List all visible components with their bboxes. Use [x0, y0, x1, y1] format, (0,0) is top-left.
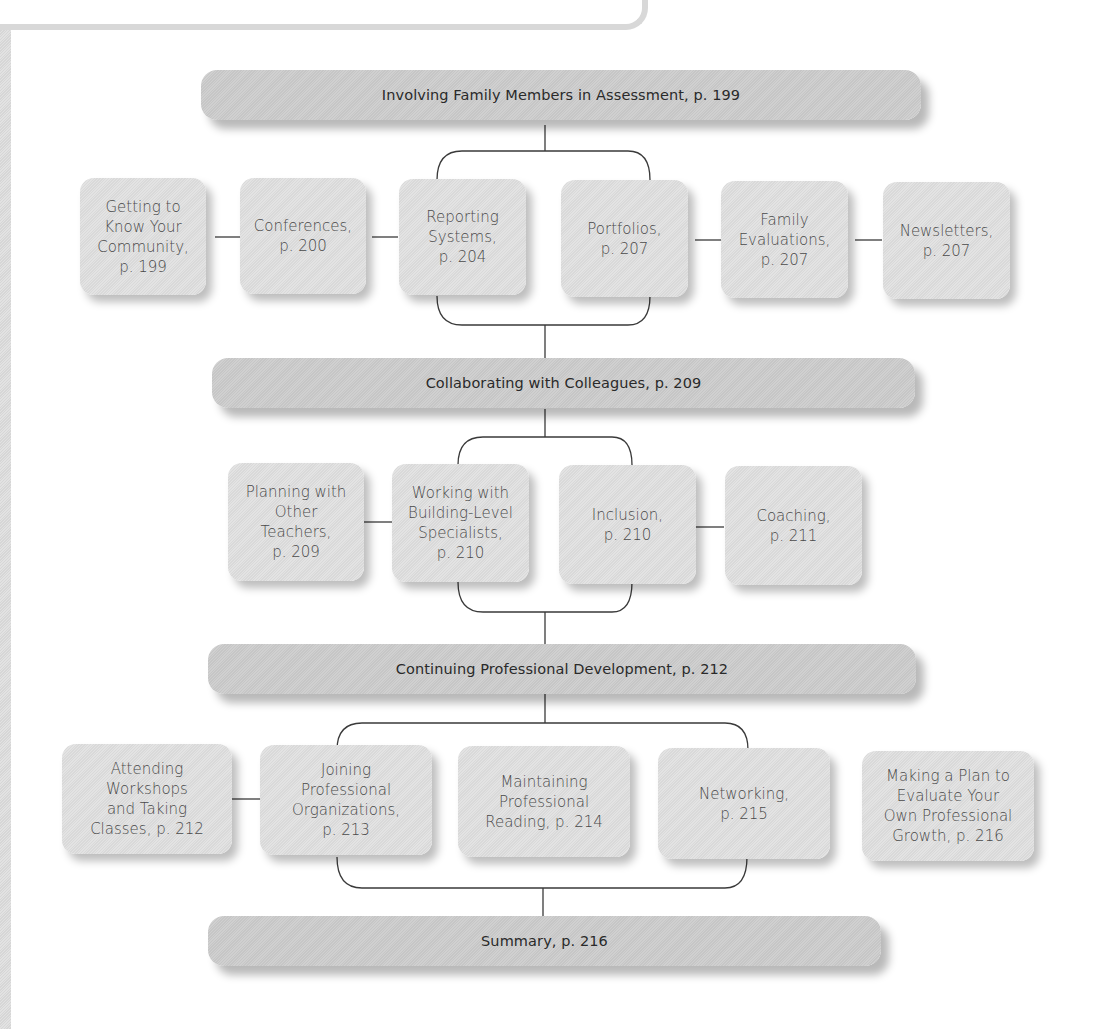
topic-portfolios: Portfolios, p. 207	[561, 180, 688, 297]
top-frame-border	[0, 0, 648, 30]
topic-family-evaluations: Family Evaluations, p. 207	[721, 181, 848, 298]
connector-lines	[0, 0, 1097, 1029]
topic-label: Making a Plan to Evaluate Your Own Profe…	[884, 766, 1013, 846]
section-title: Involving Family Members in Assessment, …	[382, 87, 740, 103]
topic-reporting-systems: Reporting Systems, p. 204	[399, 179, 526, 295]
topic-working-with-specialists: Working with Building-Level Specialists,…	[392, 464, 529, 582]
topic-label: Portfolios, p. 207	[587, 219, 661, 259]
section-title: Summary, p. 216	[481, 933, 608, 949]
topic-coaching: Coaching, p. 211	[725, 466, 862, 585]
section-header-collaborating-colleagues: Collaborating with Colleagues, p. 209	[212, 358, 915, 408]
topic-label: Family Evaluations, p. 207	[739, 210, 831, 270]
page-margin-rail	[0, 28, 11, 1029]
topic-conferences: Conferences, p. 200	[240, 178, 366, 294]
topic-making-growth-plan: Making a Plan to Evaluate Your Own Profe…	[862, 751, 1034, 861]
section-title: Collaborating with Colleagues, p. 209	[426, 375, 702, 391]
topic-label: Working with Building-Level Specialists,…	[408, 483, 513, 563]
topic-attending-workshops: Attending Workshops and Taking Classes, …	[62, 744, 232, 854]
topic-planning-with-teachers: Planning with Other Teachers, p. 209	[228, 463, 364, 581]
topic-label: Coaching, p. 211	[756, 506, 830, 546]
topic-newsletters: Newsletters, p. 207	[883, 182, 1010, 299]
topic-label: Networking, p. 215	[699, 784, 789, 824]
topic-maintaining-reading: Maintaining Professional Reading, p. 214	[458, 746, 630, 857]
topic-label: Inclusion, p. 210	[592, 505, 663, 545]
topic-label: Reporting Systems, p. 204	[426, 207, 498, 267]
section-header-family-assessment: Involving Family Members in Assessment, …	[201, 70, 921, 120]
topic-inclusion: Inclusion, p. 210	[559, 465, 696, 584]
topic-label: Newsletters, p. 207	[900, 221, 994, 261]
topic-label: Getting to Know Your Community, p. 199	[97, 197, 189, 277]
topic-label: Conferences, p. 200	[254, 216, 352, 256]
topic-networking: Networking, p. 215	[658, 748, 830, 859]
topic-joining-organizations: Joining Professional Organizations, p. 2…	[260, 745, 432, 855]
topic-label: Maintaining Professional Reading, p. 214	[485, 772, 603, 832]
section-header-professional-development: Continuing Professional Development, p. …	[208, 644, 916, 694]
topic-label: Attending Workshops and Taking Classes, …	[90, 759, 204, 839]
section-header-summary: Summary, p. 216	[208, 916, 881, 966]
topic-getting-to-know-community: Getting to Know Your Community, p. 199	[80, 178, 206, 295]
topic-label: Planning with Other Teachers, p. 209	[246, 482, 347, 562]
topic-label: Joining Professional Organizations, p. 2…	[292, 760, 400, 840]
section-title: Continuing Professional Development, p. …	[396, 661, 728, 677]
